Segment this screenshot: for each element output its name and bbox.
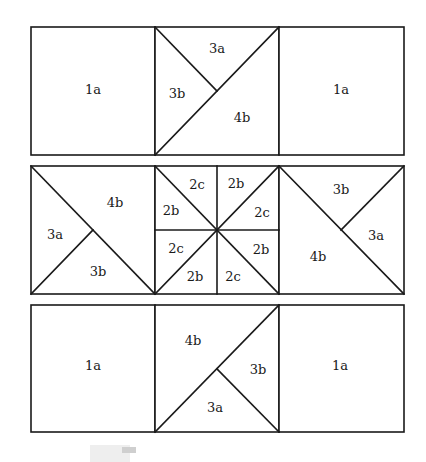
piece-label: 2c [254, 205, 270, 220]
piece-label: 3b [169, 86, 186, 101]
piece-label: 4b [234, 110, 251, 125]
piece-label: 3b [90, 264, 107, 279]
piece-label: 4b [310, 249, 327, 264]
piece-label: 1a [85, 358, 101, 373]
piece-label: 3a [47, 227, 63, 242]
quilt-diagram: 1a 3a 3b 4b 1a 4b 3a 3b 2c 2b 2b 2c 2c 2… [0, 0, 426, 462]
middle-row: 4b 3a 3b 2c 2b 2b 2c 2c 2b 2b 2c 3b 3a 4… [31, 166, 404, 294]
piece-label: 1a [333, 82, 349, 97]
piece-label: 3a [209, 41, 225, 56]
piece-label: 2c [225, 269, 241, 284]
piece-label: 2b [228, 176, 245, 191]
piece-label: 2c [168, 241, 184, 256]
bottom-row: 1a 4b 3b 3a 1a [31, 305, 404, 432]
piece-label: 3b [250, 362, 267, 377]
piece-label: 3a [207, 400, 223, 415]
piece-label: 2b [187, 269, 204, 284]
top-row: 1a 3a 3b 4b 1a [31, 27, 404, 155]
piece-label: 4b [185, 333, 202, 348]
piece-label: 4b [107, 195, 124, 210]
piece-label: 2c [189, 177, 205, 192]
piece-label: 2b [163, 203, 180, 218]
piece-label: 1a [332, 358, 348, 373]
piece-label: 3b [333, 182, 350, 197]
piece-label: 1a [85, 82, 101, 97]
piece-label: 3a [368, 228, 384, 243]
piece-label: 2b [253, 242, 270, 257]
